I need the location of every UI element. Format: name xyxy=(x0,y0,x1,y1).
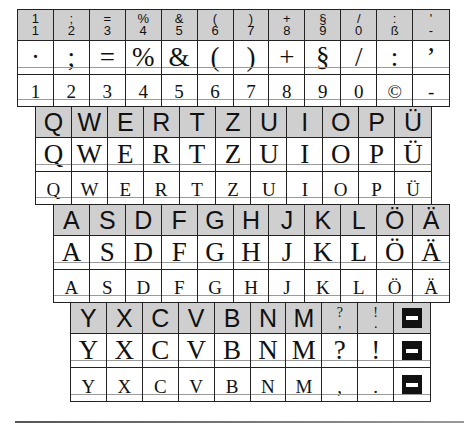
key-large-cell: G xyxy=(198,236,234,270)
key-large-glyph: ! xyxy=(371,335,380,366)
key-header-cell: +8 xyxy=(269,10,305,41)
key-small-glyph: Ü xyxy=(406,179,420,201)
key-small-glyph: T xyxy=(191,179,203,201)
key-small-glyph: 3 xyxy=(103,81,113,103)
key-large-cell: K xyxy=(305,236,341,270)
key-small-glyph: U xyxy=(262,179,276,201)
key-header-glyph: X xyxy=(116,306,133,331)
key-large-cell: J xyxy=(269,236,305,270)
key-header-glyph: Q xyxy=(44,110,63,135)
key-header-cell: D xyxy=(126,205,162,236)
key-small-glyph: E xyxy=(119,179,131,201)
key-small-glyph: J xyxy=(283,277,290,299)
key-small-glyph: A xyxy=(65,277,79,299)
key-header-cell: L xyxy=(341,205,377,236)
key-small-cell: K xyxy=(305,270,341,302)
key-small-cell: . xyxy=(358,368,394,401)
key-header-cell: :ß xyxy=(377,10,413,41)
key-large-glyph: H xyxy=(241,237,261,268)
key-large-glyph: : xyxy=(391,42,399,73)
key-small-glyph: X xyxy=(117,376,131,398)
base-symbol: 1 xyxy=(32,25,39,37)
key-large-cell: B xyxy=(215,334,251,368)
key-large-glyph: ? xyxy=(334,335,346,366)
key-header-glyph: V xyxy=(188,306,205,331)
key-header-glyph: B xyxy=(224,306,241,331)
key-large-cell: C xyxy=(143,334,179,368)
base-symbol: 3 xyxy=(104,25,111,37)
key-small-glyph: N xyxy=(261,376,275,398)
key-header-glyph: J xyxy=(281,208,294,233)
key-large-glyph: ; xyxy=(68,42,76,73)
key-large-cell: ! xyxy=(358,334,394,368)
key-large-glyph: R xyxy=(152,139,170,170)
key-header-glyph: Ö xyxy=(385,208,404,233)
key-small-cell: E xyxy=(108,172,144,204)
asdf-row-block: ASDFGHJKLÖÄASDFGHJKLÖÄASDFGHJKLÖÄ xyxy=(53,204,450,303)
key-small-glyph: W xyxy=(80,179,98,201)
key-large-cell: § xyxy=(305,41,341,75)
key-large-glyph: · xyxy=(31,42,40,73)
key-header-glyph: D xyxy=(134,208,152,233)
key-small-glyph: L xyxy=(353,277,365,299)
key-small-cell: 5 xyxy=(162,75,198,106)
base-symbol: 8 xyxy=(283,25,290,37)
key-large-cell: / xyxy=(341,41,377,75)
key-small-cell: 9 xyxy=(305,75,341,106)
key-small-glyph: - xyxy=(428,81,434,103)
key-large-cell: ) xyxy=(234,41,270,75)
key-small-glyph: V xyxy=(189,376,203,398)
key-large-glyph: ’ xyxy=(427,42,436,73)
key-large-glyph: ) xyxy=(246,42,255,73)
key-large-cell: U xyxy=(251,138,287,172)
key-small-cell: U xyxy=(251,172,287,204)
key-large-cell: Ö xyxy=(377,236,413,270)
key-small-cell: P xyxy=(359,172,395,204)
key-header-cell: W xyxy=(72,107,108,138)
key-small-glyph: M xyxy=(295,376,312,398)
key-header-cell: Z xyxy=(216,107,252,138)
key-small-cell: 7 xyxy=(234,75,270,106)
key-small-glyph: D xyxy=(136,277,150,299)
key-header-cell: E xyxy=(108,107,144,138)
key-large-cell: O xyxy=(323,138,359,172)
key-large-cell: ; xyxy=(54,41,90,75)
key-header-cell: Q xyxy=(36,107,72,138)
key-header-cell: O xyxy=(323,107,359,138)
key-small-cell: - xyxy=(413,75,449,106)
key-small-cell: S xyxy=(90,270,126,302)
key-small-glyph: S xyxy=(102,277,113,299)
key-large-glyph: Ö xyxy=(385,237,405,268)
key-large-cell: ( xyxy=(198,41,234,75)
key-small-cell: 2 xyxy=(54,75,90,106)
key-large-glyph: P xyxy=(369,139,384,170)
key-header-glyph: A xyxy=(63,208,80,233)
qwertz-row-block: QWERTZUIOPÜQWERTZUIOPÜQWERTZUIOPÜ xyxy=(35,106,432,205)
key-small-glyph: Y xyxy=(82,376,96,398)
key-header-glyph: M xyxy=(293,306,314,331)
key-small-glyph: G xyxy=(208,277,222,299)
key-small-glyph: 6 xyxy=(210,81,220,103)
key-header-cell: /0 xyxy=(341,10,377,41)
key-header-cell: &5 xyxy=(162,10,198,41)
key-header-glyph: Y xyxy=(80,306,97,331)
base-symbol: 5 xyxy=(176,25,183,37)
key-label-stack: (6 xyxy=(211,13,218,37)
base-symbol: 2 xyxy=(68,25,75,37)
key-large-glyph: E xyxy=(117,139,134,170)
key-header-glyph: Z xyxy=(225,110,240,135)
key-header-glyph: E xyxy=(117,110,134,135)
key-header-glyph: G xyxy=(205,208,224,233)
key-large-glyph: + xyxy=(279,42,294,73)
space-key-icon xyxy=(402,308,422,328)
key-small-glyph: Z xyxy=(227,179,239,201)
key-header-glyph: I xyxy=(301,110,308,135)
key-large-glyph: S xyxy=(100,237,115,268)
key-small-cell: W xyxy=(72,172,108,204)
key-small-cell: F xyxy=(162,270,198,302)
key-large-glyph: Q xyxy=(44,139,64,170)
key-label-stack: =3 xyxy=(103,13,111,37)
key-large-glyph: J xyxy=(282,237,293,268)
key-header-cell: A xyxy=(54,205,90,236)
key-small-cell: I xyxy=(287,172,323,204)
